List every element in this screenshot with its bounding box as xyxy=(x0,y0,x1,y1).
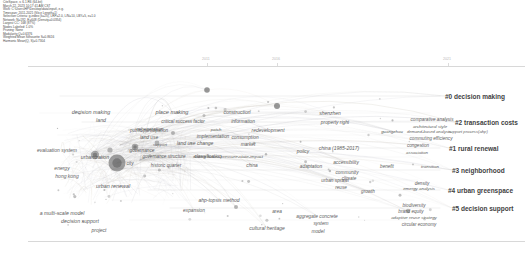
keyword-label[interactable]: community xyxy=(335,170,358,175)
keyword-label[interactable]: circular economy xyxy=(402,222,437,227)
keyword-label[interactable]: guangzhou xyxy=(381,129,403,134)
keyword-label[interactable]: land use xyxy=(140,135,158,140)
keyword-label[interactable]: patch xyxy=(211,127,222,132)
keyword-label[interactable]: evaluation system xyxy=(37,147,77,153)
keyword-label[interactable]: demand-based analysis xyxy=(407,129,451,134)
citespace-visualization: CiteSpace, v. 6.1.R6 (64-bit)March 22, 2… xyxy=(0,0,531,254)
keyword-label[interactable]: property right xyxy=(321,120,349,125)
keyword-label[interactable]: transition xyxy=(421,164,439,169)
keyword-label[interactable]: decision making xyxy=(72,109,111,115)
keyword-label[interactable]: construction xyxy=(224,109,251,115)
cluster-label-4[interactable]: #4 urban greenspace xyxy=(448,187,513,194)
keyword-label[interactable]: hong kong xyxy=(55,173,78,179)
keyword-label[interactable]: association xyxy=(406,150,428,155)
keyword-label[interactable]: growth xyxy=(361,189,375,194)
cluster-label-1[interactable]: #1 rural renewal xyxy=(449,145,499,152)
keyword-label[interactable]: area xyxy=(272,209,282,214)
keyword-label[interactable]: place making xyxy=(156,109,189,115)
cluster-label-0[interactable]: #0 decision making xyxy=(445,93,505,100)
keyword-label[interactable]: governance xyxy=(129,148,154,153)
keyword-label[interactable]: china (1985-2017) xyxy=(319,145,360,151)
keyword-label[interactable]: historic quarter xyxy=(151,163,181,168)
keyword-label[interactable]: emergy analysis xyxy=(403,186,435,191)
keyword-label[interactable]: reuse xyxy=(335,185,347,190)
keyword-label[interactable]: implementation xyxy=(197,134,230,139)
keyword-label[interactable]: ahp-topsis method xyxy=(198,197,239,203)
keyword-label[interactable]: land xyxy=(96,117,106,123)
keyword-label[interactable]: expansion xyxy=(183,208,205,213)
keyword-label[interactable]: market xyxy=(241,142,256,147)
keyword-label[interactable]: city xyxy=(127,161,134,166)
cluster-label-3[interactable]: #3 neighborhood xyxy=(452,167,505,174)
keyword-label[interactable]: support xyxy=(153,142,167,147)
keyword-label[interactable]: commuting efficiency xyxy=(410,136,453,141)
cluster-label-2[interactable]: #2 transaction costs xyxy=(455,119,518,126)
keyword-label[interactable]: model xyxy=(311,229,324,234)
keyword-label[interactable]: governance structure xyxy=(142,154,185,159)
keyword-label[interactable]: adaptation xyxy=(300,164,322,169)
keyword-label[interactable]: project xyxy=(91,227,106,233)
keyword-label[interactable]: support process(ahp) xyxy=(448,129,488,134)
keyword-label[interactable]: urban renewal xyxy=(96,183,130,189)
keyword-label[interactable]: a multi-scale model xyxy=(40,210,85,216)
keyword-label[interactable]: policy xyxy=(297,149,309,154)
keyword-label[interactable]: system xyxy=(313,221,328,226)
keyword-label[interactable]: accessibility xyxy=(333,160,359,165)
keyword-label[interactable]: china xyxy=(246,163,257,168)
keyword-label[interactable]: public participation xyxy=(130,128,168,133)
keyword-label[interactable]: driving forces-pressure-state-impact xyxy=(193,154,263,159)
keyword-label[interactable]: critical success factor xyxy=(161,119,205,124)
keyword-label[interactable]: consumption xyxy=(231,135,258,140)
keyword-label[interactable]: cultural heritage xyxy=(249,225,285,231)
keyword-label[interactable]: comparative analysis xyxy=(411,117,454,122)
keyword-label[interactable]: biodiversity xyxy=(403,203,426,208)
keyword-label[interactable]: urbanization xyxy=(81,154,109,160)
keyword-label[interactable]: land use change xyxy=(177,140,214,146)
keyword-label[interactable]: brand equity xyxy=(398,209,423,214)
keyword-label[interactable]: information xyxy=(231,119,255,124)
keyword-label[interactable]: adaptive reuse strategy xyxy=(391,215,437,220)
keyword-label[interactable]: decision support xyxy=(61,218,99,224)
keyword-label[interactable]: energy xyxy=(54,165,69,171)
keyword-label[interactable]: benefit xyxy=(380,164,394,169)
cluster-label-5[interactable]: #5 decision support xyxy=(452,205,513,212)
keyword-label[interactable]: congestion xyxy=(407,143,429,148)
keyword-label[interactable]: urban sprawl xyxy=(321,178,348,183)
keyword-label[interactable]: aggregate concrete xyxy=(296,214,337,219)
keyword-label[interactable]: shenzhen xyxy=(319,110,341,116)
keyword-label[interactable]: redevelopment xyxy=(251,127,284,133)
